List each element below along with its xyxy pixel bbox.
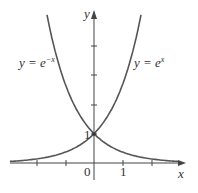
y-tick-label-1: 1 [84, 127, 91, 142]
x-axis-label: x [177, 166, 184, 181]
curve-e-to-x [10, 15, 141, 162]
curve-e-to-minus-x [47, 15, 178, 162]
y-axis-arrow-icon [91, 10, 97, 19]
y-axis-label: y [82, 6, 90, 21]
exponential-chart: y x 0 1 1 y = e−x y = ex [0, 0, 198, 193]
x-tick-label-1: 1 [120, 164, 127, 179]
label-e-minus-x: y = e−x [17, 55, 55, 70]
origin-label: 0 [84, 164, 91, 179]
intersection-point [92, 132, 96, 136]
label-e-x: y = ex [132, 55, 165, 70]
